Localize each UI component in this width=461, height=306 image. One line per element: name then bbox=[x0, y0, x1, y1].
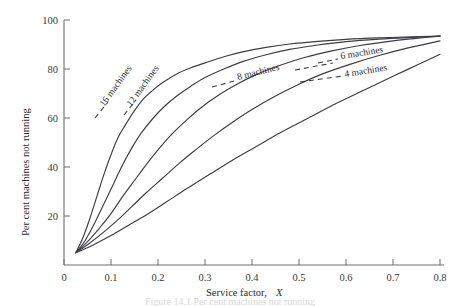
leader-line-6-machines bbox=[318, 59, 338, 63]
y-tick-label-60: 60 bbox=[48, 113, 59, 124]
curve-labels-group: 16 machines 12 machines 8 machines 6 mac… bbox=[98, 44, 389, 108]
y-tick-label-40: 40 bbox=[48, 162, 59, 173]
x-tick-label-0.8: 0.8 bbox=[433, 272, 446, 283]
axes-group bbox=[64, 20, 444, 265]
x-tick-label-0.5: 0.5 bbox=[292, 272, 305, 283]
figure-caption: Figure 14.1 Per cent machines not runnin… bbox=[145, 296, 315, 306]
x-tick-label-0.7: 0.7 bbox=[386, 272, 399, 283]
curve-label-6-machines: 6 machines bbox=[340, 44, 384, 61]
x-tick-label-0.1: 0.1 bbox=[104, 272, 117, 283]
chart-canvas: 100 80 60 40 20 0 0.1 0.2 0.3 0.4 0.5 0.… bbox=[0, 0, 461, 306]
leader-lines-group bbox=[95, 59, 343, 118]
y-tick-label-80: 80 bbox=[48, 64, 59, 75]
x-tick-label-0.3: 0.3 bbox=[198, 272, 211, 283]
curve-label-4-machines: 4 machines bbox=[344, 62, 388, 79]
y-tick-label-20: 20 bbox=[48, 211, 59, 222]
x-tick-label-0.2: 0.2 bbox=[151, 272, 164, 283]
leader-line-8-machines-right bbox=[295, 63, 333, 70]
y-ticks-group: 100 80 60 40 20 bbox=[42, 15, 70, 222]
x-tick-label-0: 0 bbox=[61, 272, 66, 283]
y-axis-title: Per cent machines not running bbox=[20, 108, 31, 236]
y-tick-label-100: 100 bbox=[42, 15, 58, 26]
curve-4-machines bbox=[76, 54, 440, 252]
x-tick-label-0.6: 0.6 bbox=[339, 272, 352, 283]
x-tick-label-0.4: 0.4 bbox=[245, 272, 259, 283]
curve-label-8-machines: 8 machines bbox=[236, 62, 280, 82]
axis-titles-group: Per cent machines not running Service fa… bbox=[20, 108, 283, 298]
figure-container: 100 80 60 40 20 0 0.1 0.2 0.3 0.4 0.5 0.… bbox=[0, 0, 461, 306]
x-ticks-group: 0 0.1 0.2 0.3 0.4 0.5 0.6 0.7 0.8 bbox=[61, 259, 446, 283]
